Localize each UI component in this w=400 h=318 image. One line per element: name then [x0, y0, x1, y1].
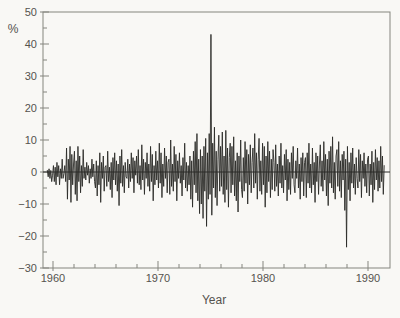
y-tick-label: −10 [18, 198, 37, 210]
chart-generated: 50403020100−10−20−301960197019801990 [18, 6, 390, 284]
y-tick-label: 10 [25, 134, 37, 146]
y-tick-label: 40 [25, 38, 37, 50]
figure-page: 50403020100−10−20−301960197019801990 % Y… [0, 0, 400, 318]
y-tick-label: −30 [18, 262, 37, 274]
plot-frame [43, 12, 390, 268]
y-axis-unit-label: % [8, 22, 19, 36]
x-tick-label: 1960 [41, 272, 65, 284]
y-tick-label: 30 [25, 70, 37, 82]
x-tick-label: 1970 [146, 272, 170, 284]
y-tick-label: 0 [31, 166, 37, 178]
data-line [47, 34, 384, 247]
y-tick-label: 20 [25, 102, 37, 114]
chart: 50403020100−10−20−301960197019801990 % Y… [0, 0, 400, 318]
y-tick-label: −20 [18, 230, 37, 242]
x-axis-title: Year [202, 293, 226, 307]
x-tick-label: 1980 [251, 272, 275, 284]
y-tick-label: 50 [25, 6, 37, 18]
x-tick-label: 1990 [356, 272, 380, 284]
